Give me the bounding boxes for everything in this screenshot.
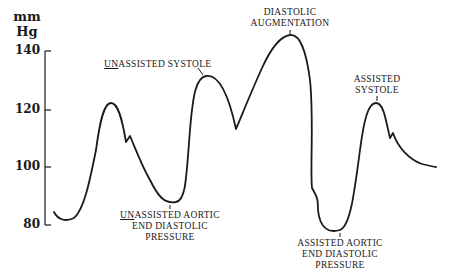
label-unassisted-aortic-edp-line3: PRESSURE [120, 232, 220, 243]
label-assisted-aortic-edp-line1: ASSISTED AORTIC [292, 238, 388, 249]
tick-label-120: 120 [10, 102, 40, 116]
label-unassisted-aortic-edp-line2: END DIASTOLIC [120, 221, 220, 232]
tick-label-140: 140 [10, 43, 40, 57]
label-unassisted-systole-rest: ASSISTED SYSTOLE [118, 59, 211, 69]
tick-label-100: 100 [10, 159, 40, 173]
label-assisted-systole-line1: ASSISTED [347, 74, 407, 85]
label-unassisted-systole-prefix: UN [104, 59, 118, 69]
label-unassisted-aortic-edp-line1: UNASSISTED AORTIC [120, 210, 220, 221]
label-diastolic-augmentation: DIASTOLIC AUGMENTATION [250, 7, 330, 29]
tick-label-80: 80 [10, 217, 40, 231]
y-axis-unit-line1: mm [12, 9, 42, 24]
label-unassisted-aortic-edp-prefix: UN [120, 210, 134, 220]
label-diastolic-augmentation-line2: AUGMENTATION [250, 18, 330, 29]
label-assisted-aortic-edp: ASSISTED AORTIC END DIASTOLIC PRESSURE [292, 238, 388, 271]
label-assisted-aortic-edp-line2: END DIASTOLIC [292, 249, 388, 260]
label-assisted-systole-line2: SYSTOLE [347, 85, 407, 96]
label-assisted-aortic-edp-line3: PRESSURE [292, 260, 388, 271]
y-axis-unit-line2: Hg [12, 24, 42, 39]
label-unassisted-aortic-edp-line1-rest: ASSISTED AORTIC [134, 210, 219, 220]
label-diastolic-augmentation-line1: DIASTOLIC [250, 7, 330, 18]
y-axis [45, 51, 51, 225]
label-assisted-systole: ASSISTED SYSTOLE [347, 74, 407, 96]
y-axis-unit: mm Hg [12, 9, 42, 39]
label-unassisted-aortic-edp: UNASSISTED AORTIC END DIASTOLIC PRESSURE [120, 210, 220, 243]
label-unassisted-systole: UNASSISTED SYSTOLE [104, 59, 211, 70]
